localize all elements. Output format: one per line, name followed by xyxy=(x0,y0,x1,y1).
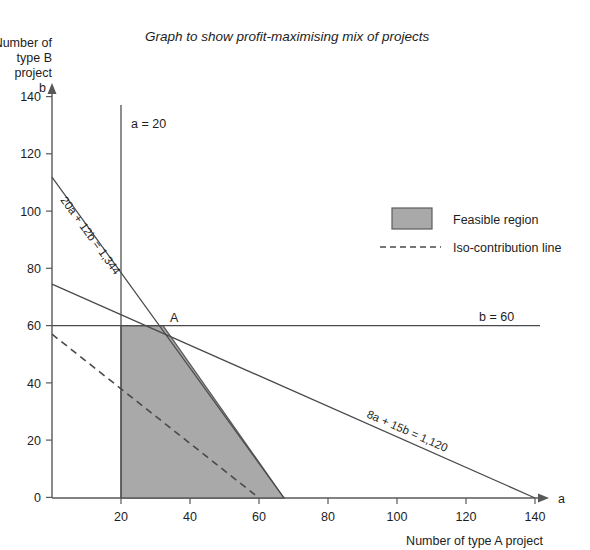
y-tick-label-40: 40 xyxy=(27,377,41,391)
y-tick-label-140: 140 xyxy=(20,90,41,104)
y-tick-label-60: 60 xyxy=(27,319,41,333)
x-tick-label-60: 60 xyxy=(252,510,266,524)
y-axis-arrow-icon xyxy=(48,83,57,94)
y-axis-ticks: 0 20 40 60 80 100 120 140 xyxy=(20,90,52,505)
legend-label-iso-contribution: Iso-contribution line xyxy=(453,241,561,255)
y-axis-caption-line-3: project xyxy=(14,66,52,80)
x-axis-arrow-icon xyxy=(538,494,549,503)
y-axis-caption-line-1: Number of xyxy=(0,36,53,50)
constraint-label-max-b: b = 60 xyxy=(479,310,514,324)
x-tick-label-20: 20 xyxy=(114,510,128,524)
constraint-label-min-a: a = 20 xyxy=(131,117,166,131)
legend: Feasible region Iso-contribution line xyxy=(380,208,561,255)
x-axis-symbol: a xyxy=(558,492,565,506)
x-axis-ticks: 20 40 60 80 100 120 140 xyxy=(114,498,545,524)
y-tick-label-100: 100 xyxy=(20,205,41,219)
y-tick-label-20: 20 xyxy=(27,434,41,448)
x-axis-caption: Number of type A project xyxy=(406,534,543,548)
constraint-label-labour: 20a + 12b = 1,344 xyxy=(58,194,123,277)
y-axis-caption: Number of type B project b xyxy=(0,36,53,95)
legend-swatch-feasible-region xyxy=(392,208,432,229)
x-tick-label-140: 140 xyxy=(525,510,546,524)
graph-figure: Graph to show profit-maximising mix of p… xyxy=(0,0,590,550)
x-tick-label-100: 100 xyxy=(387,510,408,524)
x-tick-label-40: 40 xyxy=(183,510,197,524)
feasible-region-polygon xyxy=(121,326,284,498)
annotation-optimum-point: A xyxy=(170,311,179,325)
x-tick-label-120: 120 xyxy=(456,510,477,524)
legend-label-feasible-region: Feasible region xyxy=(453,213,539,227)
y-axis-caption-line-2: type B xyxy=(17,51,52,65)
chart-page: Graph to show profit-maximising mix of p… xyxy=(0,0,590,550)
y-tick-label-0: 0 xyxy=(34,491,41,505)
x-tick-label-80: 80 xyxy=(321,510,335,524)
y-tick-label-120: 120 xyxy=(20,147,41,161)
constraint-label-materials: 8a + 15b = 1,120 xyxy=(365,408,449,454)
y-tick-label-80: 80 xyxy=(27,262,41,276)
page-title: Graph to show profit-maximising mix of p… xyxy=(145,29,430,44)
